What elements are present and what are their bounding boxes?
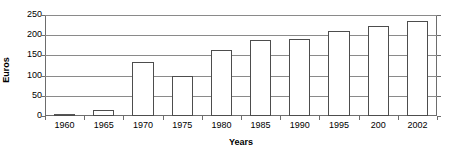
- bar-series: [45, 15, 437, 116]
- bar-slot: [123, 15, 162, 116]
- bar: [54, 114, 75, 116]
- x-axis-tick-label: 1965: [84, 119, 123, 133]
- x-axis-tick-label: 1990: [280, 119, 319, 133]
- y-axis-tick-right: [437, 55, 441, 56]
- bar: [211, 50, 232, 116]
- y-axis-tick-label: 200: [16, 30, 42, 39]
- y-axis-tick-right: [437, 35, 441, 36]
- y-axis-title-text: Euros: [1, 57, 11, 83]
- bar: [328, 31, 349, 116]
- y-axis-tick-label: 150: [16, 50, 42, 59]
- y-axis-tick-label: 0: [16, 111, 42, 120]
- plot-area: [45, 15, 437, 116]
- y-axis-tick-label: 250: [16, 10, 42, 19]
- bar-slot: [84, 15, 123, 116]
- bar-slot: [280, 15, 319, 116]
- y-axis-tick-right: [437, 96, 441, 97]
- y-axis-tick-label: 50: [16, 91, 42, 100]
- bar: [289, 39, 310, 116]
- y-axis-tick-right: [437, 76, 441, 77]
- x-axis-tick-label: 1960: [45, 119, 84, 133]
- bar-slot: [319, 15, 358, 116]
- x-axis-tick-label: 200: [359, 119, 398, 133]
- x-axis-tick-label: 1995: [319, 119, 358, 133]
- y-axis-tick-labels: 050100150200250: [12, 0, 42, 156]
- bar: [407, 21, 428, 116]
- bar: [132, 62, 153, 116]
- y-axis-tick-label: 100: [16, 71, 42, 80]
- bar: [368, 26, 389, 116]
- y-axis-title: Euros: [0, 40, 12, 100]
- x-axis-tick-label: 1970: [123, 119, 162, 133]
- bar: [172, 76, 193, 116]
- y-axis-tick-right: [437, 15, 441, 16]
- bar: [93, 110, 114, 116]
- bar-slot: [241, 15, 280, 116]
- bar-slot: [163, 15, 202, 116]
- x-axis-tick-label: 1985: [241, 119, 280, 133]
- x-axis-tick: [437, 116, 438, 120]
- x-axis-tick-label: 2002: [398, 119, 437, 133]
- x-axis-tick-label: 1975: [163, 119, 202, 133]
- x-axis-tick-label: 1980: [202, 119, 241, 133]
- bar-slot: [359, 15, 398, 116]
- bar-chart: Euros 050100150200250 196019651970197519…: [0, 0, 451, 156]
- x-axis-title: Years: [45, 137, 437, 147]
- x-axis-tick-labels: 196019651970197519801985199019952002002: [45, 119, 437, 133]
- bar-slot: [202, 15, 241, 116]
- bar-slot: [45, 15, 84, 116]
- bar-slot: [398, 15, 437, 116]
- bar: [250, 40, 271, 116]
